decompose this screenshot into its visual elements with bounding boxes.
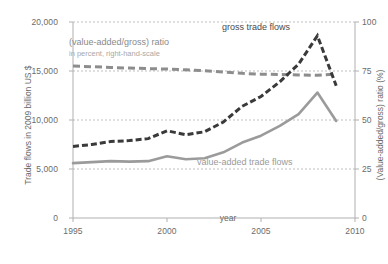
series-label-value-added: value-added trade flows <box>197 157 293 167</box>
ytick-right-25: 25 <box>362 164 372 174</box>
chart-canvas <box>0 0 388 264</box>
y-axis-right-title: (Value-added/gross) ratio (%) <box>375 45 385 205</box>
ytick-right-50: 50 <box>362 115 372 125</box>
series-label-ratio: (value-added/gross) ratio <box>69 37 169 47</box>
ytick-right-100: 100 <box>362 17 376 27</box>
x-axis-title: year <box>220 213 237 223</box>
ytick-left-15000: 15,000 <box>31 66 58 76</box>
ytick-right-75: 75 <box>362 66 372 76</box>
ytick-left-10000: 10,000 <box>31 115 58 125</box>
ytick-left-5000: 5,000 <box>36 164 58 174</box>
y-axis-left-title: Trade flows in 2009 billion US $ <box>23 45 33 205</box>
ytick-left-0: 0 <box>53 213 58 223</box>
ytick-right-0: 0 <box>362 213 367 223</box>
ytick-left-20000: 20,000 <box>31 17 58 27</box>
series-label-gross: gross trade flows <box>222 22 290 32</box>
chart-container: 20,000 15,000 10,000 5,000 0 100 75 50 2… <box>0 0 388 264</box>
xtick-2005: 2005 <box>251 226 270 236</box>
series-label-ratio-subtitle: in percent, right-hand-scale <box>69 49 160 58</box>
xtick-1995: 1995 <box>63 226 82 236</box>
xtick-2010: 2010 <box>345 226 364 236</box>
series-line-value-added <box>73 93 336 164</box>
xtick-2000: 2000 <box>157 226 176 236</box>
